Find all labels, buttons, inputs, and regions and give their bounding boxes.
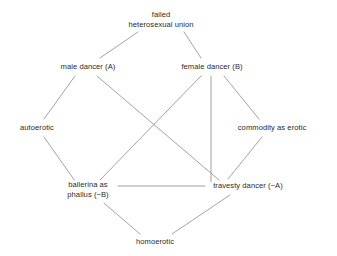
node-homoerotic: homoerotic [134,237,175,247]
edge-ballerina-phallus--homoerotic [104,203,140,234]
node-label-line1: autoerotic [20,123,54,132]
node-commodity-erotic: commodity as erotic [236,123,307,133]
node-female-dancer: female dancer (B) [180,62,244,72]
edge-commodity-erotic--travesty-dancer [228,137,262,179]
node-label-line2: phallus (−B) [67,190,108,200]
node-failed-union: failedheterosexual union [127,10,195,29]
node-label-line1: ballerina as [68,180,107,189]
diagram-canvas: failedheterosexual unionmale dancer (A)f… [0,0,337,256]
edge-failed-union--male-dancer [100,32,138,58]
edge-autoerotic--ballerina-phallus [44,137,75,181]
node-travesty-dancer: travesty dancer (−A) [212,181,285,191]
edge-male-dancer--autoerotic [44,76,75,119]
edge-travesty-dancer--homoerotic [172,195,230,234]
node-label-line1: male dancer (A) [61,62,116,71]
node-ballerina-phallus: ballerina asphallus (−B) [66,180,110,199]
node-label-line1: failed [152,10,170,19]
edge-failed-union--female-dancer [184,32,201,58]
node-male-dancer: male dancer (A) [59,62,117,72]
node-autoerotic: autoerotic [19,123,56,133]
node-label-line1: commodity as erotic [238,123,306,132]
node-label-line1: female dancer (B) [181,62,242,71]
node-label-line1: travesty dancer (−A) [213,181,283,190]
node-label-line2: heterosexual union [128,20,193,30]
node-label-line1: homoerotic [136,237,174,246]
edge-female-dancer--commodity-erotic [224,76,259,119]
